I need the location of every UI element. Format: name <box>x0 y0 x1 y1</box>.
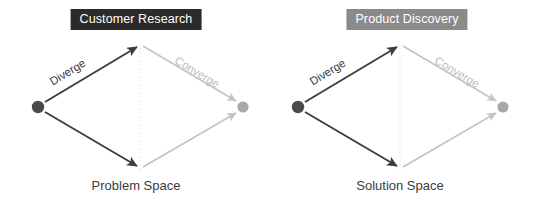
diverge-lower-arrow <box>45 112 137 166</box>
diagram-canvas: Customer Research <box>0 0 543 208</box>
start-dot <box>32 101 44 113</box>
diamond-graphic-customer-research <box>0 0 272 208</box>
converge-lower-arrow <box>403 113 496 167</box>
diamond-graphic-product-discovery <box>271 0 543 208</box>
diverge-lower-arrow <box>305 112 397 166</box>
panel-caption-problem-space: Problem Space <box>92 178 181 194</box>
diamond-panel-product-discovery: Product Discovery Diverge Converge Solut… <box>271 0 543 208</box>
end-dot <box>237 101 248 112</box>
diamond-panel-customer-research: Customer Research <box>0 0 272 208</box>
end-dot <box>497 101 508 112</box>
panel-caption-solution-space: Solution Space <box>356 178 443 194</box>
converge-lower-arrow <box>143 113 236 167</box>
start-dot <box>292 101 304 113</box>
